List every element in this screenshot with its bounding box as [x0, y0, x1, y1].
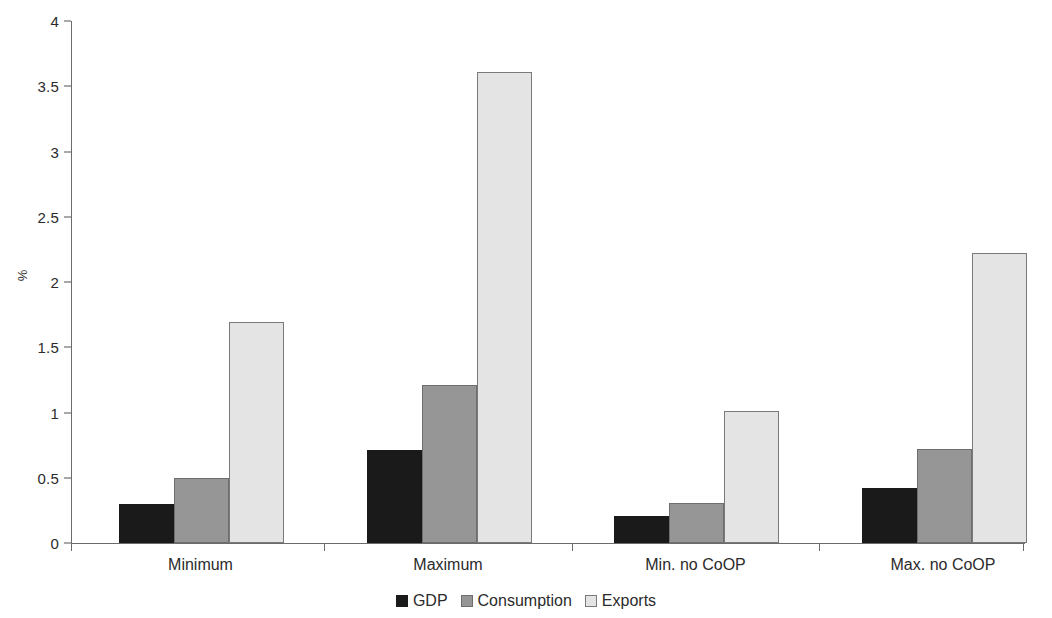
y-axis-tick-label: 2.5 — [38, 208, 59, 225]
y-axis-tick-mark — [64, 151, 71, 152]
y-axis-title: % — [15, 256, 30, 296]
legend-item-label: GDP — [413, 592, 448, 610]
legend-item-consumption: Consumption — [461, 592, 572, 610]
y-axis-tick-mark — [64, 86, 71, 87]
legend-item-label: Consumption — [478, 592, 572, 610]
x-axis-category-separator — [324, 543, 325, 551]
y-axis-tick-label: 3 — [50, 143, 59, 160]
y-axis-tick-mark — [64, 216, 71, 217]
bar-exports-minimum — [229, 322, 284, 543]
legend: GDPConsumptionExports — [0, 592, 1052, 610]
bar-gdp-minimum — [119, 504, 174, 543]
bar-consumption-min-no-coop — [669, 503, 724, 543]
y-axis: % 00.511.522.533.54 — [0, 0, 71, 618]
bar-exports-max-no-coop — [972, 253, 1027, 543]
y-axis-tick-label: 3.5 — [38, 78, 59, 95]
legend-swatch-icon — [396, 595, 408, 607]
bar-gdp-max-no-coop — [862, 488, 917, 543]
x-axis-line — [71, 543, 1025, 544]
x-axis-category-label: Minimum — [168, 556, 233, 574]
x-axis-category-separator — [1023, 543, 1024, 551]
bar-exports-maximum — [477, 72, 532, 543]
y-axis-tick-label: 1.5 — [38, 339, 59, 356]
legend-item-exports: Exports — [585, 592, 656, 610]
y-axis-tick-mark — [64, 477, 71, 478]
y-axis-tick-label: 0.5 — [38, 469, 59, 486]
y-axis-tick-mark — [64, 282, 71, 283]
plot-area — [71, 21, 1023, 543]
bar-consumption-max-no-coop — [917, 449, 972, 543]
y-axis-tick-mark — [64, 412, 71, 413]
legend-swatch-icon — [461, 595, 473, 607]
x-axis-category-label: Min. no CoOP — [645, 556, 745, 574]
y-axis-tick-label: 0 — [50, 535, 59, 552]
y-axis-tick-mark — [64, 21, 71, 22]
x-axis-category-label: Maximum — [413, 556, 482, 574]
bar-consumption-maximum — [422, 385, 477, 543]
legend-swatch-icon — [585, 595, 597, 607]
bar-chart: % 00.511.522.533.54 GDPConsumptionExport… — [0, 0, 1052, 618]
x-axis-category-label: Max. no CoOP — [891, 556, 996, 574]
x-axis-category-separator — [819, 543, 820, 551]
bar-gdp-maximum — [367, 450, 422, 543]
y-axis-tick-label: 4 — [50, 13, 59, 30]
y-axis-tick-label: 1 — [50, 404, 59, 421]
bar-gdp-min-no-coop — [614, 516, 669, 543]
legend-item-gdp: GDP — [396, 592, 448, 610]
legend-item-label: Exports — [602, 592, 656, 610]
bar-consumption-minimum — [174, 478, 229, 543]
x-axis-category-separator — [71, 543, 72, 551]
x-axis-category-separator — [572, 543, 573, 551]
y-axis-tick-mark — [64, 347, 71, 348]
bar-exports-min-no-coop — [724, 411, 779, 543]
y-axis-tick-mark — [64, 543, 71, 544]
y-axis-tick-label: 2 — [50, 274, 59, 291]
